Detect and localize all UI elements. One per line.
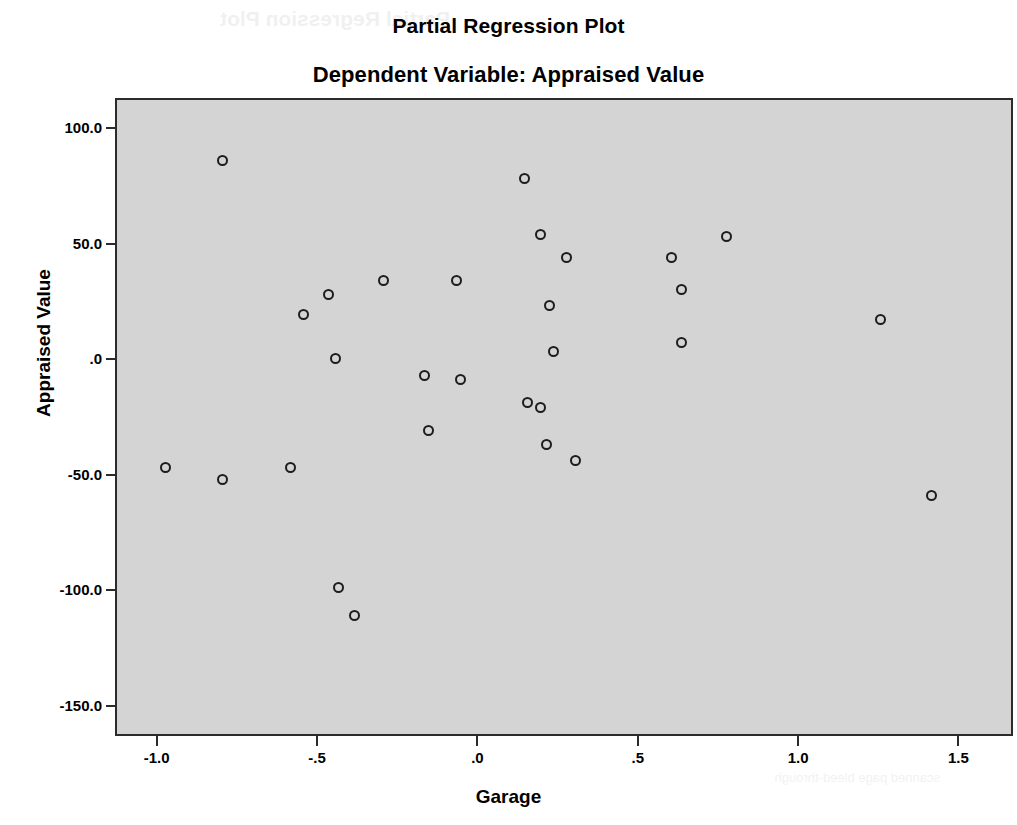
data-point bbox=[676, 284, 687, 295]
data-point bbox=[285, 462, 296, 473]
data-point bbox=[721, 231, 732, 242]
x-axis-tick bbox=[797, 736, 799, 746]
x-axis-tick bbox=[637, 736, 639, 746]
y-axis-tick bbox=[106, 705, 115, 707]
y-axis-tick-label: -100.0 bbox=[10, 581, 102, 598]
data-point bbox=[160, 462, 171, 473]
data-point bbox=[217, 155, 228, 166]
y-axis-tick bbox=[106, 589, 115, 591]
y-axis-tick-label: 50.0 bbox=[10, 235, 102, 252]
data-point bbox=[330, 353, 341, 364]
x-axis-tick-label: -.5 bbox=[282, 749, 352, 766]
x-axis-tick-label: 1.5 bbox=[923, 749, 993, 766]
y-axis-tick bbox=[106, 243, 115, 245]
data-point bbox=[666, 252, 677, 263]
data-point bbox=[561, 252, 572, 263]
x-axis-tick bbox=[957, 736, 959, 746]
chart-subtitle: Dependent Variable: Appraised Value bbox=[0, 62, 1017, 88]
data-point bbox=[676, 337, 687, 348]
x-axis-tick-label: 1.0 bbox=[763, 749, 833, 766]
x-axis-label: Garage bbox=[0, 786, 1017, 808]
x-axis-tick bbox=[156, 736, 158, 746]
y-axis-tick-label: -150.0 bbox=[10, 697, 102, 714]
x-axis-tick-label: .5 bbox=[603, 749, 673, 766]
y-axis-tick bbox=[106, 474, 115, 476]
x-axis-tick-label: -1.0 bbox=[122, 749, 192, 766]
x-axis-tick bbox=[476, 736, 478, 746]
data-point bbox=[333, 582, 344, 593]
data-point bbox=[349, 610, 360, 621]
data-point bbox=[875, 314, 886, 325]
data-point bbox=[544, 300, 555, 311]
y-axis-tick bbox=[106, 127, 115, 129]
data-point bbox=[419, 370, 430, 381]
y-axis-tick-label: .0 bbox=[10, 350, 102, 367]
data-point bbox=[926, 490, 937, 501]
data-point bbox=[423, 425, 434, 436]
data-point bbox=[217, 474, 228, 485]
data-point bbox=[541, 439, 552, 450]
data-point bbox=[323, 289, 334, 300]
data-point bbox=[298, 309, 309, 320]
plot-frame bbox=[115, 98, 1013, 736]
chart-title: Partial Regression Plot bbox=[0, 14, 1017, 38]
data-point bbox=[535, 402, 546, 413]
x-axis-tick bbox=[316, 736, 318, 746]
data-point bbox=[519, 173, 530, 184]
data-point bbox=[535, 229, 546, 240]
data-point bbox=[522, 397, 533, 408]
y-axis-tick bbox=[106, 358, 115, 360]
y-axis-tick-label: -50.0 bbox=[10, 466, 102, 483]
scatter-plot-area bbox=[117, 100, 1011, 734]
y-axis-tick-label: 100.0 bbox=[10, 119, 102, 136]
x-axis-tick-label: .0 bbox=[442, 749, 512, 766]
y-axis-label: Appraised Value bbox=[33, 223, 55, 463]
data-point bbox=[455, 374, 466, 385]
data-point bbox=[570, 455, 581, 466]
data-point bbox=[548, 346, 559, 357]
data-point bbox=[378, 275, 389, 286]
data-point bbox=[451, 275, 462, 286]
